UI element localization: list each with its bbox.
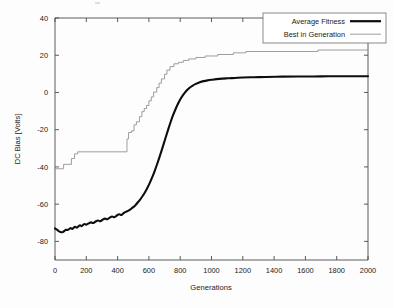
legend-label-best-in-generation: Best in Generation [284,30,345,39]
x-axis-title: Generations [190,283,232,292]
y-tick-label: -40 [37,163,48,172]
y-tick-label: 0 [44,88,48,97]
legend: Average Fitness Best in Generation [263,13,386,43]
x-tick-label: 200 [80,266,92,275]
x-tick-label: 2000 [360,266,376,275]
x-tick-label: 1600 [297,266,313,275]
x-tick-label: 400 [111,266,123,275]
x-tick-label: 1200 [235,266,251,275]
y-tick-label: -20 [37,125,48,134]
x-tick-label: 800 [174,266,186,275]
x-tick-label: 1000 [203,266,219,275]
y-tick-label: -80 [37,237,48,246]
x-tick-label: 1400 [266,266,282,275]
y-tick-label: 20 [40,51,48,60]
x-tick-label: 0 [53,266,57,275]
plot-frame [55,18,368,260]
series-line-average-fitness [55,76,368,232]
line-chart: 40200-20-40-60-80 0200400600800100012001… [0,0,394,308]
y-axis-title: DC Bias [Volts] [13,114,22,165]
y-tick-label: 40 [40,14,48,23]
y-axis: 40200-20-40-60-80 [37,14,368,246]
x-axis: 0200400600800100012001400160018002000 [53,18,376,275]
series-line-best-in-generation [55,50,368,169]
y-tick-label: -60 [37,200,48,209]
x-tick-label: 600 [143,266,155,275]
x-tick-label: 1800 [328,266,344,275]
figure-container: 40200-20-40-60-80 0200400600800100012001… [0,0,394,308]
legend-label-average-fitness: Average Fitness [292,17,346,26]
scan-artifact [95,2,100,4]
